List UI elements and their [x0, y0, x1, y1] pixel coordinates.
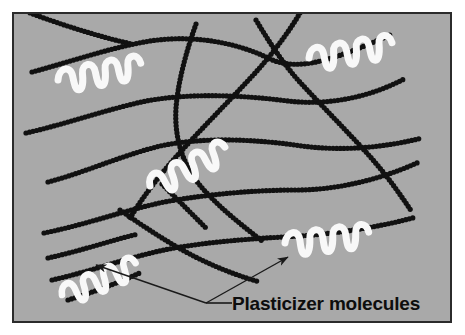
figure-root: Plasticizer molecules [0, 0, 465, 335]
caption-label: Plasticizer molecules [232, 293, 420, 314]
plasticizer-diagram: Plasticizer molecules [0, 0, 465, 335]
